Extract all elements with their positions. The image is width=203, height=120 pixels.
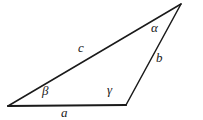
side-label-a: a	[61, 106, 68, 119]
triangle-figure: c b a α β γ	[0, 0, 203, 120]
side-label-b: b	[156, 51, 163, 64]
side-label-c: c	[78, 41, 84, 54]
angle-label-alpha: α	[151, 21, 158, 34]
angle-label-beta: β	[42, 84, 48, 97]
triangle-drawing	[0, 0, 203, 120]
angle-label-gamma: γ	[107, 83, 112, 96]
